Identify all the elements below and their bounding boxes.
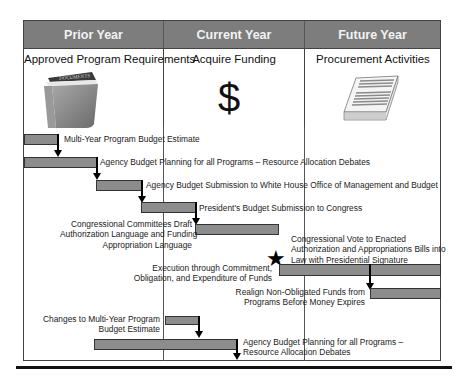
bar-step-9 [165,316,199,325]
arrow-connector [195,202,197,218]
bar-step-2 [24,157,97,168]
arrow-connector [141,180,143,196]
header-prior-year: Prior Year [24,21,163,49]
label-line: Realign Non-Obligated Funds from [220,287,365,297]
bar-step-3 [96,180,142,191]
step-10-label: Agency Budget Planning for all Programs … [243,337,403,358]
label-line: Authorization and Appropriations Bills i… [291,244,446,254]
label-line: Authorization Language and Funding [60,229,192,239]
dollar-sign-icon: $ [218,76,240,120]
future-year-title: Procurement Activities [305,53,441,65]
step-7-label: Execution through Commitment, Obligation… [120,263,272,284]
bar-step-5 [195,224,279,235]
step-8-label: Realign Non-Obligated Funds from Program… [220,287,365,308]
arrow-connector [57,134,59,150]
bar-step-8 [370,288,441,299]
step-4-label: President's Budget Submission to Congres… [199,203,362,213]
header-current-year: Current Year [164,21,304,49]
label-line: Changes to Multi-Year Program [40,314,160,324]
arrow-down-icon [195,331,203,338]
arrow-connector [198,316,200,332]
header-divider [304,21,305,48]
step-5-label: Congressional Committees Draft Authoriza… [60,219,192,250]
documents-folder-icon: DOCUMENTS [42,68,102,130]
header-future-year: Future Year [305,21,440,49]
label-line: Agency Budget Planning for all Programs … [243,337,403,347]
label-line: Obligation, and Expenditure of Funds [120,273,272,283]
header-divider [163,21,164,48]
arrow-connector [96,157,98,173]
arrow-down-icon [93,173,101,180]
label-line: Appropriation Language [60,240,192,250]
arrow-connector [236,339,238,354]
current-year-title: Acquire Funding [164,53,304,65]
label-line: Resource Allocation Debates [243,347,403,357]
bottom-rule [16,366,452,369]
arrow-down-icon [54,150,62,157]
bar-step-7 [279,264,441,276]
bar-step-1 [24,134,58,145]
step-9-label: Changes to Multi-Year Program Budget Est… [40,314,160,335]
label-line: Congressional Committees Draft [60,219,192,229]
label-line: Congressional Vote to Enacted [291,234,446,244]
bar-step-4 [141,202,196,213]
label-line: Programs Before Money Expires [220,297,365,307]
step-6-label: Congressional Vote to Enacted Authorizat… [291,234,446,265]
label-line: Budget Estimate [40,324,160,334]
step-2-label: Agency Budget Planning for all Programs … [100,157,370,167]
step-3-label: Agency Budget Submission to White House … [146,180,438,190]
paper-stack-icon [340,72,404,124]
label-line: Execution through Commitment, [120,263,272,273]
arrow-down-icon [233,353,241,360]
step-1-label: Multi-Year Program Budget Estimate [64,134,200,144]
arrow-connector [369,264,371,284]
prior-year-title: Approved Program Requirements [24,53,164,65]
bar-step-10 [94,339,237,350]
